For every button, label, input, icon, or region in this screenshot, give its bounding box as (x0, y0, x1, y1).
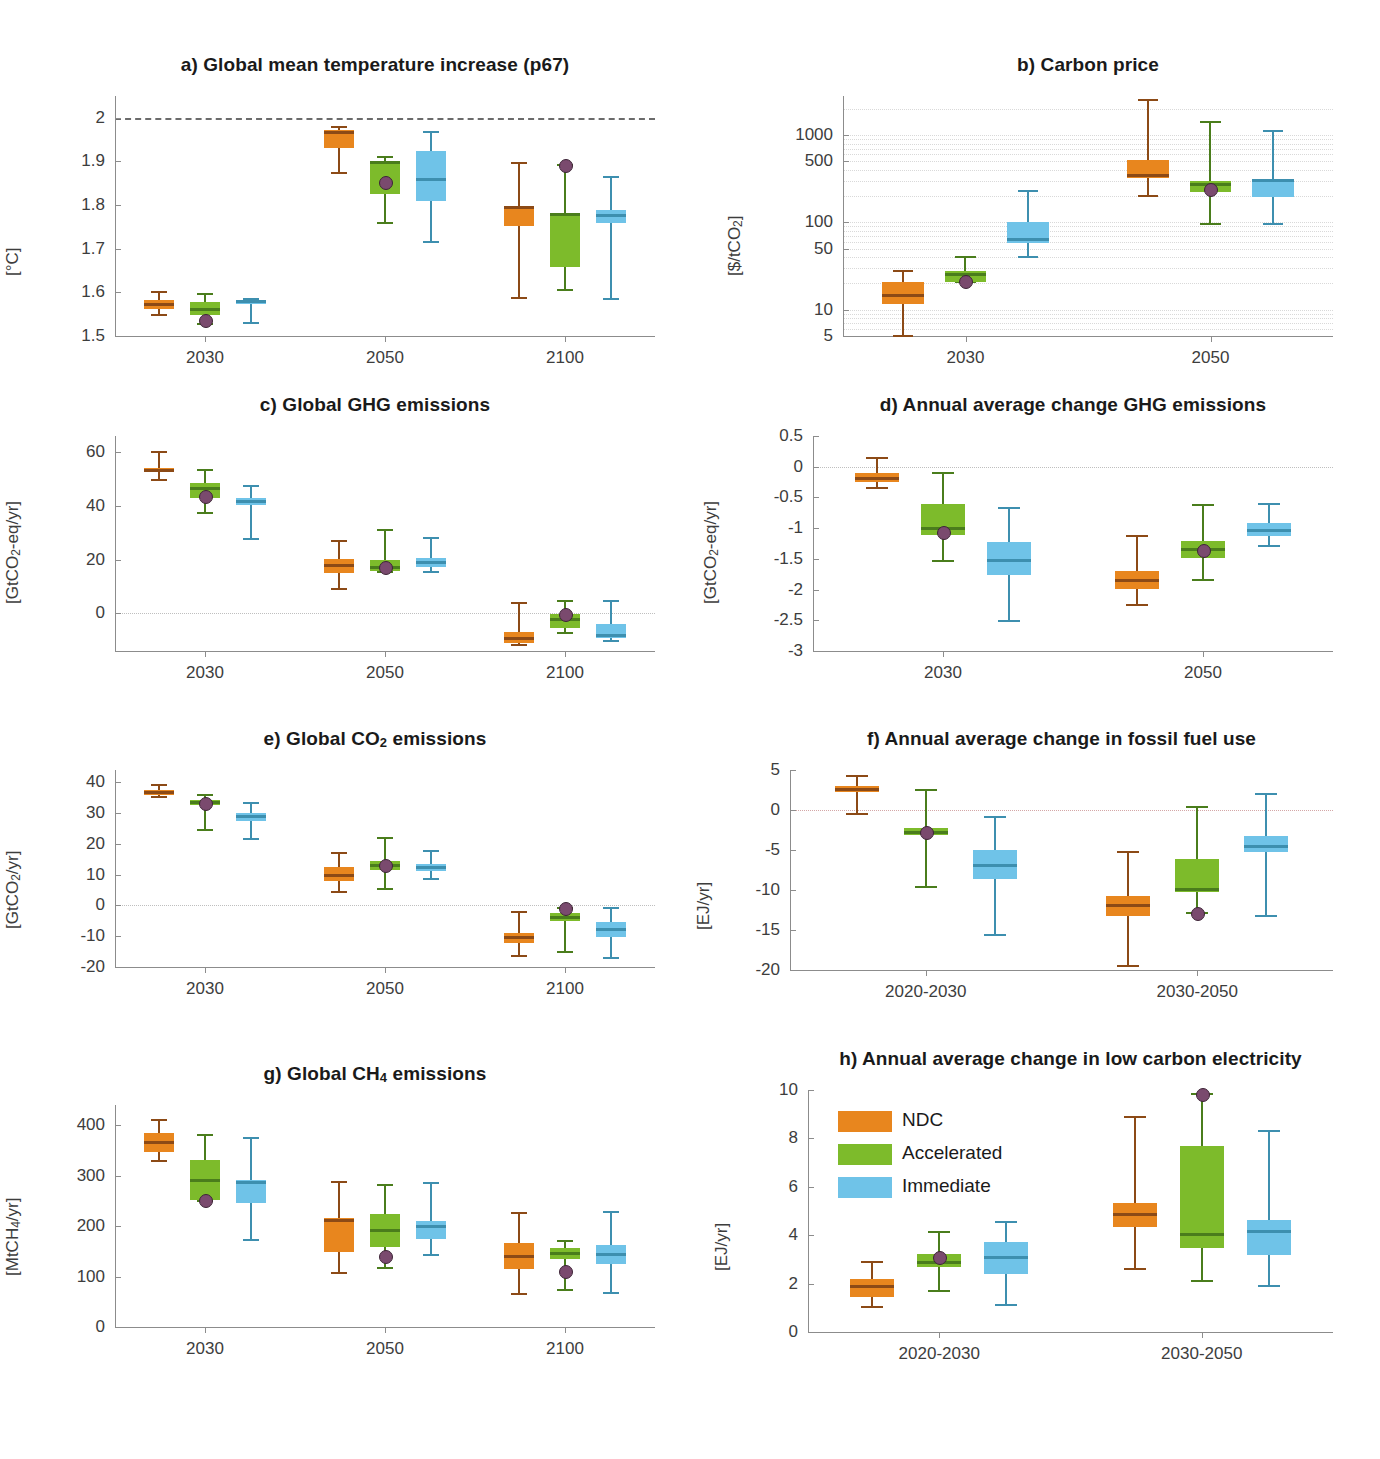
whisker-cap-upper (603, 600, 618, 602)
boxplot-h-ndc-2020-2030 (850, 1259, 894, 1310)
whisker-cap-lower (557, 951, 572, 953)
whisker-cap-upper (1117, 851, 1139, 853)
y-tick (790, 930, 796, 931)
y-tick (115, 1327, 121, 1328)
median-line (1247, 1230, 1291, 1233)
plot-area-d: -3-2.5-2-1.5-1-0.500.5[GtCO2-eq/yr]20302… (813, 436, 1333, 651)
y-axis-title-d: [GtCO2-eq/yr] (701, 500, 721, 603)
x-tick (1203, 651, 1204, 657)
chart-panel-c: c) Global GHG emissions0204060[GtCO2-eq/… (115, 436, 655, 651)
x-tick-label: 2030-2050 (1161, 1344, 1242, 1364)
whisker-cap-lower (1192, 579, 1214, 581)
median-line (835, 788, 879, 791)
whisker-cap-upper (1258, 1130, 1280, 1132)
median-line (416, 1225, 447, 1228)
plot-area-g: 0100200300400[MtCH4/yr]203020502100 (115, 1105, 655, 1327)
whisker-line (250, 803, 252, 840)
chart-panel-e: e) Global CO2 emissions-20-10010203040[G… (115, 770, 655, 967)
boxplot-g-immediate-2100 (596, 1209, 627, 1296)
y-tick-label: -10 (755, 880, 780, 900)
whisker-cap-lower (928, 1290, 950, 1292)
whisker-cap-lower (511, 644, 526, 646)
boxplot-b-accelerated-2030 (945, 254, 987, 285)
legend-label: Accelerated (902, 1142, 1002, 1164)
whisker-cap-upper (197, 469, 212, 471)
whisker-cap-upper (995, 1221, 1017, 1223)
y-tick (813, 620, 819, 621)
whisker-line (1134, 1117, 1136, 1269)
y-tick (790, 770, 796, 771)
mean-marker (379, 859, 393, 873)
y-axis-line-g (115, 1105, 116, 1327)
y-tick (790, 890, 796, 891)
y-tick (808, 1187, 814, 1188)
whisker-cap-upper (511, 1212, 526, 1214)
panel-title-h: h) Annual average change in low carbon e… (808, 1048, 1333, 1070)
whisker-line (1272, 131, 1274, 223)
y-tick-label: -3 (788, 641, 803, 661)
y-tick (790, 810, 796, 811)
mean-marker (559, 159, 573, 173)
median-line (973, 864, 1017, 867)
median-line (1115, 579, 1159, 582)
boxplot-d-accelerated-2030 (921, 470, 965, 564)
boxplot-a-ndc-2100 (504, 160, 535, 301)
chart-panel-h: h) Annual average change in low carbon e… (808, 1090, 1333, 1332)
boxplot-b-immediate-2030 (1007, 188, 1049, 260)
boxplot-c-immediate-2050 (416, 535, 447, 575)
whisker-cap-upper (243, 1137, 258, 1139)
x-tick-label: 2050 (1192, 348, 1230, 368)
median-line (550, 916, 581, 919)
y-tick (115, 118, 121, 119)
whisker-cap-upper (1186, 806, 1208, 808)
mean-marker (199, 797, 213, 811)
y-tick (115, 292, 121, 293)
y-tick (115, 782, 121, 783)
chart-panel-d: d) Annual average change GHG emissions-3… (813, 436, 1333, 651)
boxplot-h-ndc-2030-2050 (1113, 1114, 1157, 1272)
x-tick-label: 2100 (546, 1339, 584, 1359)
whisker-cap-upper (1258, 503, 1280, 505)
boxplot-a-accelerated-2030 (190, 291, 221, 328)
boxplot-g-accelerated-2100 (550, 1238, 581, 1293)
y-tick (115, 249, 121, 250)
median-line (1007, 238, 1049, 241)
y-tick (843, 336, 849, 337)
mean-marker (937, 526, 951, 540)
whisker-cap-upper (377, 529, 392, 531)
y-tick (115, 813, 121, 814)
boxplot-a-immediate-2100 (596, 174, 627, 302)
boxplot-e-accelerated-2030 (190, 792, 221, 833)
whisker-cap-upper (1255, 793, 1277, 795)
median-line (1252, 179, 1294, 182)
y-tick-label: 0.5 (779, 426, 803, 446)
whisker-cap-lower (1126, 604, 1148, 606)
median-line (370, 1229, 401, 1232)
y-axis-title-h: [EJ/yr] (712, 1223, 732, 1271)
median-line (504, 206, 535, 209)
x-tick (565, 336, 566, 342)
boxplot-c-accelerated-2100 (550, 598, 581, 636)
mean-marker (379, 1250, 393, 1264)
whisker-cap-lower (377, 222, 392, 224)
boxplot-g-accelerated-2030 (190, 1132, 221, 1204)
x-tick (966, 336, 967, 342)
x-tick-label: 2020-2030 (885, 982, 966, 1002)
x-tick-label: 2020-2030 (899, 1344, 980, 1364)
box-iqr (416, 151, 447, 202)
y-tick-label: -15 (755, 920, 780, 940)
y-tick (115, 613, 121, 614)
y-tick-label: 50 (814, 239, 833, 259)
whisker-cap-lower (197, 512, 212, 514)
boxplot-d-ndc-2050 (1115, 533, 1159, 608)
box-iqr (324, 1218, 355, 1252)
whisker-cap-upper (603, 1211, 618, 1213)
whisker-cap-upper (423, 850, 438, 852)
median-line (236, 815, 267, 818)
whisker-cap-upper (1018, 190, 1039, 192)
whisker-cap-upper (511, 162, 526, 164)
median-line (1127, 174, 1169, 177)
median-line (1113, 1213, 1157, 1216)
mean-marker (199, 1194, 213, 1208)
boxplot-a-immediate-2050 (416, 129, 447, 245)
